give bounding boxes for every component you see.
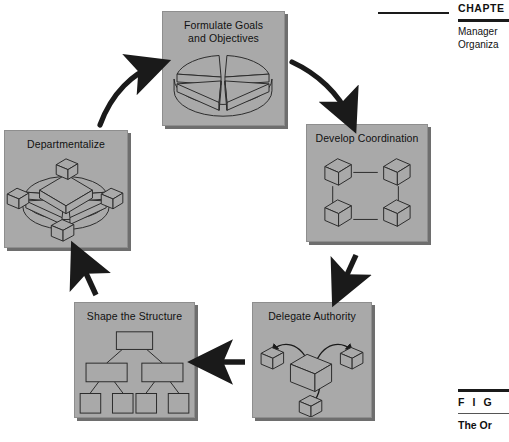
figure-label: F I G (458, 396, 494, 408)
step-departmentalize[interactable]: Departmentalize (4, 130, 128, 248)
step-shape-the-structure[interactable]: Shape the Structure (74, 302, 195, 418)
figure-title: The Or (458, 419, 492, 431)
header-rule (378, 12, 449, 14)
chapter-heading: CHAPTE (458, 2, 504, 14)
arrow-coord-to-delegate (340, 255, 356, 290)
step-label-delegate-authority: Delegate Authority (253, 310, 371, 323)
step-formulate-goals[interactable]: Formulate Goals and Objectives (162, 11, 285, 126)
chapter-subtitle: Manager Organiza (458, 26, 499, 51)
arrow-structure-to-depart (79, 258, 96, 295)
org-chart-tree-icon (75, 323, 194, 417)
page-margin: CHAPTE Manager Organiza F I G The Or (378, 0, 509, 442)
step-delegate-authority[interactable]: Delegate Authority (252, 302, 372, 418)
disc-with-cubes-icon (5, 151, 127, 247)
cycle-diagram-canvas: Formulate Goals and Objectives (0, 0, 378, 442)
figure-page: Formulate Goals and Objectives (0, 0, 509, 442)
step-label-departmentalize: Departmentalize (5, 138, 127, 151)
arrow-goals-to-coord (292, 62, 349, 117)
arrow-depart-to-goals (100, 66, 154, 125)
chapter-heading-rule (458, 19, 509, 22)
step-label-shape-the-structure: Shape the Structure (75, 310, 194, 323)
figure-caption-hairline (458, 413, 509, 414)
segmented-disc-icon (163, 32, 284, 125)
cubes-with-arrows-icon (253, 323, 371, 417)
figure-caption-rule (458, 389, 509, 392)
